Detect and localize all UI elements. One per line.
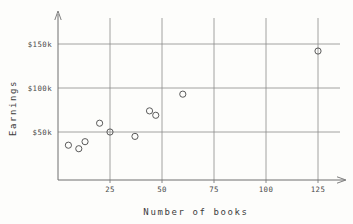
- gridlines-group: [58, 18, 340, 180]
- data-point-marker: [97, 120, 103, 126]
- y-tick-label: $50k: [33, 128, 53, 137]
- tick-labels-group: 255075100125$50k$100k$150k: [28, 40, 326, 194]
- x-tick-label: 25: [105, 185, 115, 194]
- y-tick-label: $150k: [28, 40, 52, 49]
- data-point-marker: [132, 133, 138, 139]
- x-tick-label: 100: [259, 185, 274, 194]
- axes-group: [55, 11, 346, 183]
- scatter-plot-figure: 255075100125$50k$100k$150k Number of boo…: [0, 0, 353, 224]
- data-point-marker: [146, 108, 152, 114]
- data-point-marker: [153, 112, 159, 118]
- plot-canvas: 255075100125$50k$100k$150k: [0, 0, 353, 224]
- data-point-marker: [65, 142, 71, 148]
- data-point-marker: [180, 91, 186, 97]
- data-points-group: [65, 48, 321, 152]
- y-tick-label: $100k: [28, 84, 52, 93]
- x-tick-label: 50: [157, 185, 167, 194]
- x-tick-label: 75: [209, 185, 219, 194]
- data-point-marker: [82, 139, 88, 145]
- data-point-marker: [76, 146, 82, 152]
- x-tick-label: 125: [311, 185, 326, 194]
